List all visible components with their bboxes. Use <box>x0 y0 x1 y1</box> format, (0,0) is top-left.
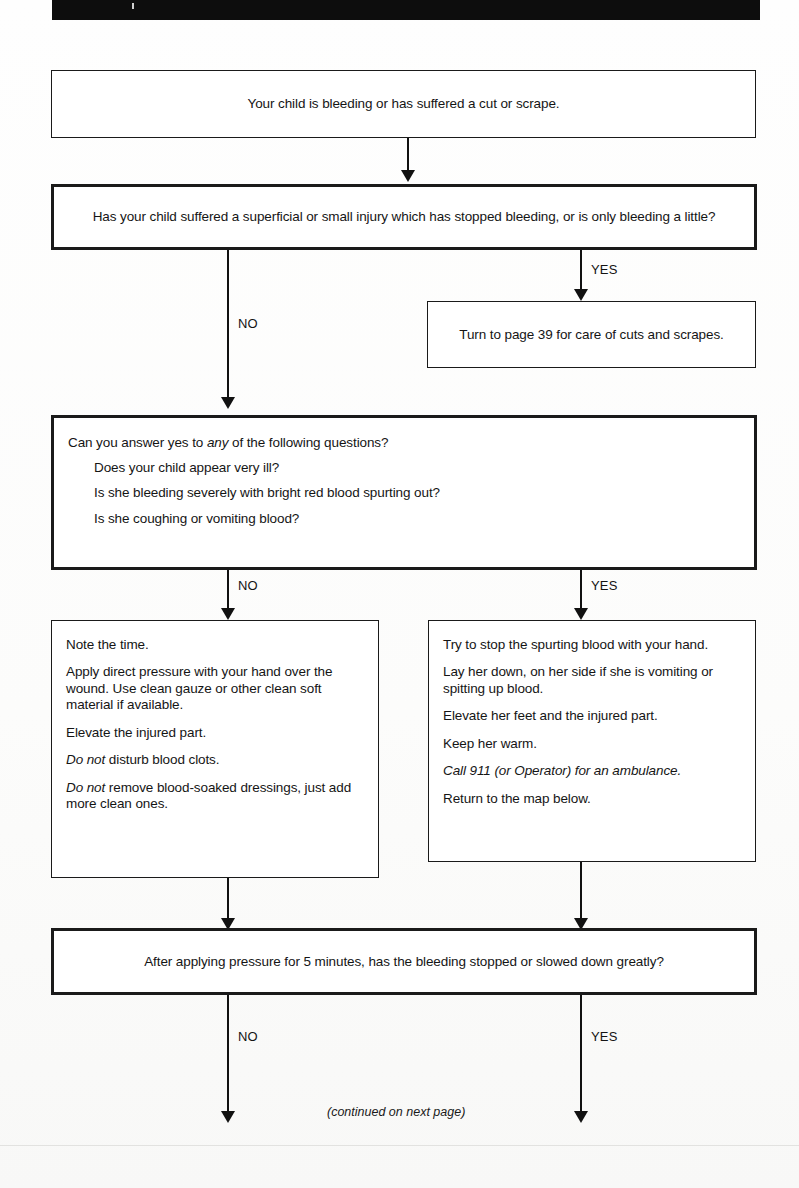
edge-label-q3-yes: YES <box>591 1029 618 1044</box>
node-start-text: Your child is bleeding or has suffered a… <box>248 96 560 112</box>
step-item: Do not disturb blood clots. <box>66 752 366 768</box>
question-any-lead-post: of the following questions? <box>228 435 388 450</box>
node-steps-yes-branch: Try to stop the spurting blood with your… <box>428 620 756 862</box>
connector-q3-yes <box>580 995 582 1113</box>
connector-q2-yes <box>580 570 582 610</box>
node-question-after-pressure: After applying pressure for 5 minutes, h… <box>51 928 757 995</box>
step-item: Call 911 (or Operator) for an ambulance. <box>443 763 743 779</box>
node-question-any-lead: Can you answer yes to any of the followi… <box>54 435 754 451</box>
step-item: Elevate her feet and the injured part. <box>443 708 743 724</box>
arrowhead-q2-no <box>221 608 235 620</box>
question-any-lead-pre: Can you answer yes to <box>68 435 207 450</box>
connector-steps-yes-to-q3 <box>580 862 582 920</box>
node-question-any: Can you answer yes to any of the followi… <box>51 415 757 570</box>
question-any-item: Is she coughing or vomiting blood? <box>54 511 754 527</box>
step-emphasis: Do not <box>66 752 105 767</box>
header-bar <box>52 0 760 20</box>
connector-steps-no-to-q3 <box>227 878 229 920</box>
connector-q2-no <box>227 570 229 610</box>
steps-yes-list: Try to stop the spurting blood with your… <box>429 637 755 807</box>
step-item: Note the time. <box>66 637 366 653</box>
connector-q1-yes <box>580 250 582 291</box>
paper-texture <box>0 0 799 1188</box>
steps-no-list: Note the time. Apply direct pressure wit… <box>52 637 378 813</box>
step-emphasis: Do not <box>66 780 105 795</box>
connector-q3-no <box>227 995 229 1113</box>
step-item: Elevate the injured part. <box>66 725 366 741</box>
arrowhead-q1-yes <box>574 289 588 301</box>
edge-label-q2-no: NO <box>238 578 258 593</box>
node-turn-to-page-text: Turn to page 39 for care of cuts and scr… <box>459 327 723 343</box>
arrowhead-q2-yes <box>574 608 588 620</box>
arrowhead-start-to-q1 <box>401 170 415 182</box>
connector-q1-no <box>227 250 229 399</box>
header-bar-mark <box>132 3 134 9</box>
step-emphasis-full: Call 911 (or Operator) for an ambulance. <box>443 763 681 778</box>
node-question-superficial-text: Has your child suffered a superficial or… <box>93 209 716 225</box>
question-any-item: Is she bleeding severely with bright red… <box>54 485 754 501</box>
scan-line <box>0 1145 799 1146</box>
node-question-after-pressure-text: After applying pressure for 5 minutes, h… <box>144 954 664 970</box>
node-steps-no-branch: Note the time. Apply direct pressure wit… <box>51 620 379 878</box>
node-start: Your child is bleeding or has suffered a… <box>51 70 756 138</box>
step-item: Keep her warm. <box>443 736 743 752</box>
edge-label-q1-yes: YES <box>591 262 618 277</box>
edge-label-q3-no: NO <box>238 1029 258 1044</box>
node-turn-to-page: Turn to page 39 for care of cuts and scr… <box>427 301 756 368</box>
step-item: Try to stop the spurting blood with your… <box>443 637 743 653</box>
step-item: Do not remove blood-soaked dressings, ju… <box>66 780 366 813</box>
arrowhead-q3-no <box>221 1111 235 1123</box>
continued-footnote: (continued on next page) <box>327 1105 465 1119</box>
step-text: remove blood-soaked dressings, just add … <box>66 780 351 811</box>
step-item: Apply direct pressure with your hand ove… <box>66 664 366 713</box>
arrowhead-q1-no <box>221 397 235 409</box>
node-question-superficial: Has your child suffered a superficial or… <box>51 184 757 250</box>
question-any-lead-emphasis: any <box>207 435 228 450</box>
connector-start-to-q1 <box>407 138 409 172</box>
step-item: Return to the map below. <box>443 791 743 807</box>
edge-label-q1-no: NO <box>238 316 258 331</box>
step-item: Lay her down, on her side if she is vomi… <box>443 664 743 697</box>
arrowhead-q3-yes <box>574 1111 588 1123</box>
edge-label-q2-yes: YES <box>591 578 618 593</box>
question-any-item: Does your child appear very ill? <box>54 460 754 476</box>
flowchart-page: Your child is bleeding or has suffered a… <box>0 0 799 1188</box>
step-text: disturb blood clots. <box>105 752 219 767</box>
